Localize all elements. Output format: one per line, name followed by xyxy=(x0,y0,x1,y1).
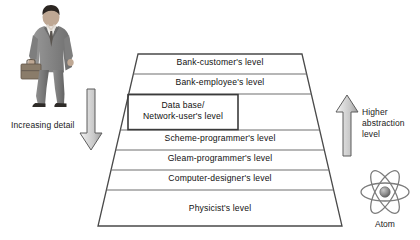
pyramid-level-6: Physicist's level xyxy=(96,203,344,214)
pyramid-level-5: Computer-designer's level xyxy=(96,173,344,184)
pyramid-level-1: Bank-employee's level xyxy=(96,77,344,88)
atom-icon xyxy=(358,166,412,218)
pyramid-level-0: Bank-customer's level xyxy=(96,57,344,68)
increasing-detail-label: Increasing detail xyxy=(11,120,75,131)
abstraction-pyramid: Bank-customer's level Bank-employee's le… xyxy=(96,52,344,228)
higher-abstraction-level-label: Higher abstraction level xyxy=(362,107,418,140)
pyramid-level-2: Data base/ Network-user's level xyxy=(128,100,238,122)
atom-label: Atom xyxy=(356,219,414,229)
diagram-canvas: Increasing detail Higher abstraction lev… xyxy=(0,0,420,240)
pyramid-level-4: Gleam-programmer's level xyxy=(96,153,344,164)
pyramid-level-3: Scheme-programmer's level xyxy=(96,133,344,144)
